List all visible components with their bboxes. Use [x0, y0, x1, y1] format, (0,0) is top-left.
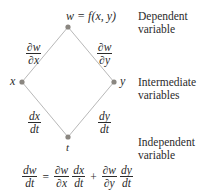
term2-derivative: dy dt: [120, 164, 133, 189]
frac-den: dt: [121, 177, 132, 189]
edge-label-num: dx: [28, 110, 41, 123]
edge-label-dw-dy: ∂w ∂y: [97, 41, 112, 66]
label-line: variable: [138, 149, 195, 162]
term1-derivative: dx dt: [72, 164, 85, 189]
edge-label-den: dt: [29, 123, 40, 135]
node-y-label: y: [120, 75, 125, 88]
independent-variable-label: Independent variable: [138, 136, 195, 162]
frac-num: dy: [120, 164, 133, 177]
node-t-dot: [65, 134, 70, 139]
frac-num: ∂w: [54, 164, 69, 177]
node-x-label: x: [10, 75, 15, 88]
node-t-label: t: [66, 141, 69, 154]
frac-num: dx: [72, 164, 85, 177]
intermediate-variables-label: Intermediate variables: [138, 76, 196, 102]
term1-partial: ∂w ∂x: [54, 164, 69, 189]
label-line: Independent: [138, 136, 195, 149]
edge-label-dy-dt: dy dt: [98, 110, 111, 135]
label-line: variable: [138, 23, 188, 36]
frac-den: ∂x: [55, 177, 68, 189]
edge-label-dw-dx: ∂w ∂x: [26, 41, 41, 66]
edge-label-num: dy: [98, 110, 111, 123]
frac-den: dt: [73, 177, 84, 189]
chain-rule-equation: dw dt = ∂w ∂x dx dt + ∂w ∂y dy dt: [22, 164, 133, 189]
equals-sign: =: [40, 171, 51, 183]
frac-num: ∂w: [102, 164, 117, 177]
edge-label-num: ∂w: [26, 41, 41, 54]
node-x-dot: [19, 79, 24, 84]
label-line: variables: [138, 89, 196, 102]
frac-den: ∂y: [103, 177, 116, 189]
plus-sign: +: [88, 171, 99, 183]
edge-label-dx-dt: dx dt: [28, 110, 41, 135]
frac-den: dt: [24, 177, 35, 189]
term2-partial: ∂w ∂y: [102, 164, 117, 189]
frac-num: dw: [22, 164, 37, 177]
edge-label-num: ∂w: [97, 41, 112, 54]
edge-label-den: ∂y: [98, 54, 111, 66]
node-y-dot: [111, 79, 116, 84]
node-w-dot: [65, 24, 70, 29]
lhs-fraction: dw dt: [22, 164, 37, 189]
node-w-label: w = f(x, y): [66, 10, 116, 23]
label-line: Dependent: [138, 10, 188, 23]
label-line: Intermediate: [138, 76, 196, 89]
edge-label-den: ∂x: [27, 54, 40, 66]
edge-label-den: dt: [99, 123, 110, 135]
dependent-variable-label: Dependent variable: [138, 10, 188, 36]
